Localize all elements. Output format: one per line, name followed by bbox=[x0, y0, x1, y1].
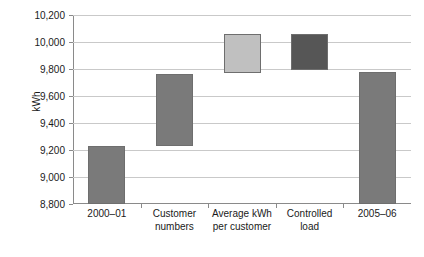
x-axis-category-label: Controlledload bbox=[276, 208, 344, 233]
y-axis-tick-label: 8,800 bbox=[5, 199, 65, 210]
y-axis-tick bbox=[69, 150, 73, 151]
y-axis-tick bbox=[69, 177, 73, 178]
y-axis-tick-label: 10,000 bbox=[5, 37, 65, 48]
x-axis-category-label-line: Customer bbox=[141, 208, 209, 221]
x-axis-category-label: Customernumbers bbox=[141, 208, 209, 233]
x-axis-category-label-line: 2000–01 bbox=[73, 208, 141, 221]
x-axis-category-label: 2000–01 bbox=[73, 208, 141, 221]
gridline bbox=[73, 15, 411, 16]
x-axis-category-label-line: per customer bbox=[208, 221, 276, 234]
x-axis-category-label-line: load bbox=[276, 221, 344, 234]
y-axis-tick-label: 9,000 bbox=[5, 172, 65, 183]
y-axis-line bbox=[73, 15, 74, 204]
y-axis-tick-label: 9,600 bbox=[5, 91, 65, 102]
y-axis-tick-label: 9,800 bbox=[5, 64, 65, 75]
y-axis-tick-label: 10,200 bbox=[5, 10, 65, 21]
y-axis-tick-label: 9,400 bbox=[5, 118, 65, 129]
x-axis-category-label-line: Average kWh bbox=[208, 208, 276, 221]
x-axis-category-label: Average kWhper customer bbox=[208, 208, 276, 233]
bar bbox=[224, 34, 261, 73]
y-axis-tick bbox=[69, 204, 73, 205]
x-axis-category-label-line: Controlled bbox=[276, 208, 344, 221]
x-axis-category-label-line: 2005–06 bbox=[343, 208, 411, 221]
bar bbox=[291, 34, 328, 70]
y-axis-tick bbox=[69, 123, 73, 124]
y-axis-tick bbox=[69, 15, 73, 16]
x-axis-category-label: 2005–06 bbox=[343, 208, 411, 221]
y-axis-tick bbox=[69, 69, 73, 70]
bar bbox=[156, 74, 193, 146]
bar bbox=[88, 146, 125, 204]
plot-area: 10,20010,0009,8009,6009,4009,2009,0008,8… bbox=[73, 15, 411, 204]
y-axis-tick bbox=[69, 42, 73, 43]
y-axis-tick bbox=[69, 96, 73, 97]
x-axis-category-label-line: numbers bbox=[141, 221, 209, 234]
chart-container: kWh 10,20010,0009,8009,6009,4009,2009,00… bbox=[0, 0, 424, 257]
bar bbox=[359, 72, 396, 204]
y-axis-tick-label: 9,200 bbox=[5, 145, 65, 156]
